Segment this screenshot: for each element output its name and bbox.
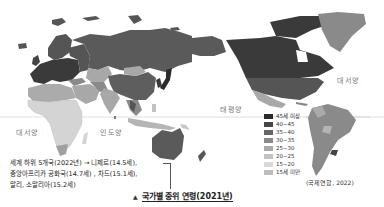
japan [160,68,172,90]
legend-label: 40~45 [276,121,295,128]
south-africa [56,144,68,156]
legend-label: 25~30 [276,145,295,152]
legend-label: 15세 미만 [276,169,300,176]
annotation-line: 중앙아프리카 공화국(14.7세) , 차드(15.1세), [10,169,180,180]
indonesia [128,118,176,130]
sri-lanka [114,116,116,119]
scandinavia [48,34,72,60]
annotation-line: 세계 하위 5개국(2022년) → 니제르(14.5세), [10,158,180,169]
svalbard [52,18,66,26]
greenland [318,12,366,52]
legend-item: 25~30 [264,145,300,153]
legend-label: 15~20 [276,161,295,168]
legend-item: 40~45 [264,121,300,129]
legend-item: 15세 미만 [264,169,300,177]
legend-swatch [264,130,273,135]
russia [72,28,192,72]
hudson-bay [296,50,308,62]
canada [226,36,334,78]
legend-swatch [264,162,273,167]
madagascar [82,132,88,144]
novaya-zemlya [82,16,100,21]
legend-item: 15~20 [264,161,300,169]
legend-item: 35~40 [264,129,300,137]
south-america [308,104,356,176]
legend-item: 45세 이상 [264,113,300,121]
map-legend: 45세 이상 40~45 35~40 30~35 25~30 20~25 15~… [264,113,300,177]
caribbean [296,102,308,106]
alaska [192,36,226,56]
legend-label: 30~35 [276,137,295,144]
legend-swatch [264,122,273,127]
ocean-label-indian: 인도양 [100,127,123,137]
legend-label: 45세 이상 [276,113,300,120]
iceland [18,43,27,49]
legend-swatch [264,170,273,175]
caption-title: 국가별 중위 연령(2021년) [142,190,233,202]
legend-swatch [264,154,273,159]
legend-item: 30~35 [264,137,300,145]
north-africa [28,84,76,102]
source-citation: (국제연합, 2022) [306,178,354,187]
ocean-label-atlantic-north: 대서양 [337,75,360,85]
new-zealand [198,150,206,162]
legend-swatch [264,138,273,143]
uk [32,55,40,66]
annotation-connector-vertical [170,163,171,189]
philippines [152,104,156,112]
legend-label: 35~40 [276,129,295,136]
legend-label: 20~25 [276,153,295,160]
legend-swatch [264,146,273,151]
figure-caption: ▲ 국가별 중위 연령(2021년) [133,190,233,202]
sub-saharan-africa [28,100,82,152]
triangle-marker-icon: ▲ [133,193,138,200]
ocean-label-atlantic-south: 대서양 [16,127,39,137]
uruguay [330,150,338,156]
annotation-connector-horizontal [163,163,170,164]
lowest-five-annotation: 세계 하위 5개국(2022년) → 니제르(14.5세), 중앙아프리카 공화… [10,158,180,191]
ocean-label-pacific: 태평양 [220,104,243,114]
legend-item: 20~25 [264,153,300,161]
legend-swatch [264,114,273,119]
severnaya [128,15,142,24]
australia [152,128,184,160]
pacific-islands [180,124,190,130]
